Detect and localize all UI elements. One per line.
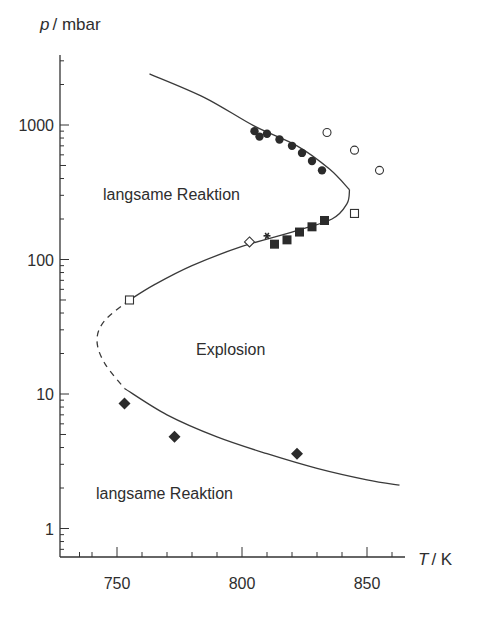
limit-curve — [130, 190, 350, 300]
limit-curve — [125, 388, 400, 485]
filled-circle-marker — [318, 166, 326, 174]
x-tick-label: 800 — [229, 575, 256, 592]
y-tick-label: 1 — [45, 521, 54, 538]
filled-square-marker — [270, 240, 279, 249]
region-label-slow-reaction-upper: langsame Reaktion — [103, 186, 240, 203]
open-square-marker — [351, 209, 359, 217]
filled-diamond-marker — [119, 397, 131, 409]
limit-curve — [97, 300, 130, 388]
filled-square-marker — [320, 216, 329, 225]
limit-curves — [97, 74, 400, 485]
filled-circle-marker — [263, 130, 271, 138]
filled-circle-marker — [288, 142, 296, 150]
filled-diamond-marker — [169, 431, 181, 443]
x-axis-label: T/ K — [418, 550, 453, 569]
y-axis-label: p/ mbar — [39, 15, 101, 34]
filled-circle-marker — [255, 132, 263, 140]
y-tick-label: 100 — [27, 252, 54, 269]
x-tick-label: 850 — [354, 575, 381, 592]
filled-circle-marker — [275, 135, 283, 143]
filled-square-marker — [308, 222, 317, 231]
axes: 1101001000750800850 — [18, 55, 405, 592]
open-square-marker — [126, 296, 134, 304]
filled-diamond-marker — [291, 448, 303, 460]
open-circle-marker — [351, 146, 359, 154]
region-label-slow-reaction-lower: langsame Reaktion — [96, 485, 233, 502]
filled-circle-marker — [308, 157, 316, 165]
explosion-limits-chart: 1101001000750800850 p/ mbar T/ K langsam… — [0, 0, 477, 621]
filled-square-marker — [283, 235, 292, 244]
open-circle-marker — [323, 128, 331, 136]
y-tick-label: 10 — [36, 386, 54, 403]
filled-square-marker — [295, 228, 304, 237]
y-tick-label: 1000 — [18, 117, 54, 134]
open-circle-marker — [376, 166, 384, 174]
x-tick-label: 750 — [104, 575, 131, 592]
labels: p/ mbar T/ K langsame Reaktion Explosion… — [39, 15, 453, 569]
filled-circle-marker — [298, 149, 306, 157]
region-label-explosion: Explosion — [196, 341, 265, 358]
